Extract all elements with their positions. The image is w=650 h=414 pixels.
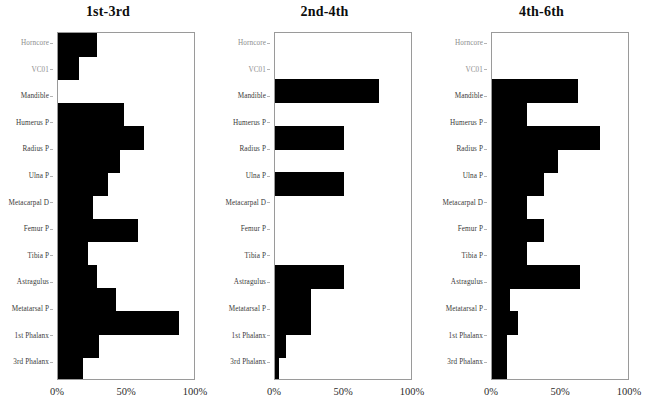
y-axis-tick xyxy=(484,282,487,283)
y-axis-label-astragulus: Astragulus xyxy=(17,278,53,286)
y-axis-label-metatarsal-p: Metatarsal P xyxy=(446,305,487,313)
y-axis-tick xyxy=(50,96,53,97)
y-axis-label-metatarsal-p: Metatarsal P xyxy=(12,305,53,313)
y-axis-tick xyxy=(484,122,487,123)
y-axis-label-femur-p: Femur P xyxy=(241,225,270,233)
bar xyxy=(492,219,544,243)
y-axis-label-astragulus: Astragulus xyxy=(234,278,270,286)
bar xyxy=(275,126,344,150)
y-axis-label-femur-p: Femur P xyxy=(458,225,487,233)
plot-area-3 xyxy=(491,32,629,380)
bar xyxy=(58,56,79,80)
x-axis-labels-2: 0%50%100% xyxy=(274,386,412,402)
y-axis-tick xyxy=(267,282,270,283)
y-axis-tick xyxy=(267,309,270,310)
bar xyxy=(275,172,344,196)
bar xyxy=(492,172,544,196)
y-axis-tick xyxy=(267,229,270,230)
bars-2 xyxy=(275,33,411,379)
bar xyxy=(492,103,527,127)
y-axis-tick xyxy=(267,149,270,150)
bar xyxy=(492,335,507,359)
y-axis-label-1st-phalanx: 1st Phalanx xyxy=(449,332,487,340)
y-axis-tick xyxy=(267,362,270,363)
figure-canvas: 1st-3rd HorncoreVC01MandibleHumerus PRad… xyxy=(0,0,650,414)
y-axis-label-radius-p: Radius P xyxy=(22,145,53,153)
x-axis-labels-3: 0%50%100% xyxy=(491,386,629,402)
bar xyxy=(275,265,344,289)
y-axis-label-femur-p: Femur P xyxy=(24,225,53,233)
panel-4th-6th: 4th-6th HorncoreVC01MandibleHumerus PRad… xyxy=(433,0,650,414)
plot-area-1 xyxy=(57,32,195,380)
bar xyxy=(58,149,120,173)
bar xyxy=(58,33,97,57)
y-axis-label-metacarpal-d: Metacarpal D xyxy=(225,199,270,207)
bar xyxy=(492,79,578,103)
bar xyxy=(492,288,510,312)
y-axis-label-3rd-phalanx: 3rd Phalanx xyxy=(447,358,487,366)
x-axis-tick-label: 50% xyxy=(333,386,352,397)
y-axis-tick xyxy=(50,69,53,70)
x-axis-tick-label: 0% xyxy=(484,386,498,397)
plot-area-2 xyxy=(274,32,412,380)
bar xyxy=(492,126,600,150)
y-axis-tick xyxy=(484,69,487,70)
y-axis-tick xyxy=(484,96,487,97)
bar xyxy=(58,288,116,312)
bars-3 xyxy=(492,33,628,379)
bar xyxy=(58,358,83,380)
y-axis-tick xyxy=(484,229,487,230)
y-axis-label-metacarpal-d: Metacarpal D xyxy=(8,199,53,207)
y-axis-tick xyxy=(50,255,53,256)
bar xyxy=(58,219,138,243)
y-axis-tick xyxy=(267,255,270,256)
y-axis-label-humerus-p: Humerus P xyxy=(233,119,270,127)
y-axis-label-3rd-phalanx: 3rd Phalanx xyxy=(230,358,270,366)
y-axis-tick xyxy=(50,202,53,203)
y-axis-label-astragulus: Astragulus xyxy=(451,278,487,286)
y-axis-label-humerus-p: Humerus P xyxy=(16,119,53,127)
y-axis-label-horncore: Horncore xyxy=(21,39,53,47)
y-axis-tick xyxy=(50,122,53,123)
y-axis-tick xyxy=(267,122,270,123)
y-axis-tick xyxy=(267,43,270,44)
y-axis-tick xyxy=(50,43,53,44)
bar xyxy=(275,358,279,380)
y-axis-label-humerus-p: Humerus P xyxy=(450,119,487,127)
y-axis-labels-1: HorncoreVC01MandibleHumerus PRadius PUln… xyxy=(0,32,53,380)
bar xyxy=(492,358,507,380)
bar xyxy=(58,126,144,150)
y-axis-tick xyxy=(50,362,53,363)
y-axis-tick xyxy=(484,309,487,310)
y-axis-tick xyxy=(267,96,270,97)
y-axis-tick xyxy=(50,229,53,230)
panel-title-2: 2nd-4th xyxy=(216,4,433,20)
y-axis-tick xyxy=(50,149,53,150)
panel-title-1: 1st-3rd xyxy=(0,4,216,20)
y-axis-label-horncore: Horncore xyxy=(455,39,487,47)
y-axis-label-radius-p: Radius P xyxy=(456,145,487,153)
y-axis-label-metatarsal-p: Metatarsal P xyxy=(229,305,270,313)
bar xyxy=(58,311,179,335)
y-axis-label-mandible: Mandible xyxy=(238,92,270,100)
y-axis-tick xyxy=(484,255,487,256)
y-axis-tick xyxy=(484,43,487,44)
bar xyxy=(58,265,97,289)
bar xyxy=(58,103,124,127)
x-axis-labels-1: 0%50%100% xyxy=(57,386,195,402)
y-axis-tick xyxy=(484,362,487,363)
y-axis-tick xyxy=(50,309,53,310)
y-axis-tick xyxy=(484,149,487,150)
bar xyxy=(275,288,311,312)
x-axis-tick-label: 100% xyxy=(183,386,208,397)
panel-title-3: 4th-6th xyxy=(433,4,650,20)
bar xyxy=(492,195,527,219)
bar xyxy=(492,265,580,289)
bar xyxy=(58,172,108,196)
bar xyxy=(58,242,88,266)
y-axis-tick xyxy=(50,282,53,283)
y-axis-tick xyxy=(267,176,270,177)
x-axis-tick-label: 50% xyxy=(116,386,135,397)
x-axis-tick-label: 0% xyxy=(267,386,281,397)
bar xyxy=(58,195,93,219)
